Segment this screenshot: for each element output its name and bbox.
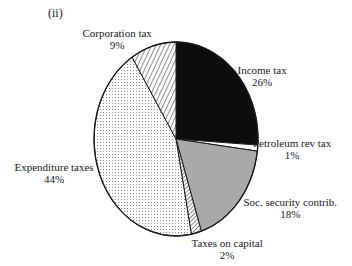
label-percent: 2%	[192, 249, 263, 261]
label-name: Income tax	[238, 64, 287, 76]
label-percent: 26%	[238, 76, 287, 88]
label-percent: 44%	[15, 173, 94, 185]
label-percent: 18%	[244, 208, 337, 220]
label-name: Petroleum rev tax	[253, 137, 331, 149]
label-name: Taxes on capital	[192, 237, 263, 249]
label-percent: 9%	[83, 39, 152, 51]
label-income-tax: Income tax26%	[238, 64, 287, 88]
label-name: Soc. security contrib.	[244, 196, 337, 208]
pie-slice-income-tax	[176, 42, 258, 145]
label-taxes-on-capital: Taxes on capital2%	[192, 237, 263, 261]
label-petroleum-rev-tax: Petroleum rev tax1%	[253, 137, 331, 161]
label-name: Corporation tax	[83, 27, 152, 39]
pie-chart	[0, 0, 352, 266]
label-name: Expenditure taxes	[15, 161, 94, 173]
pie-slices	[94, 42, 258, 236]
label-percent: 1%	[253, 149, 331, 161]
label-expenditure-taxes: Expenditure taxes44%	[15, 161, 94, 185]
label-soc-security-contrib: Soc. security contrib.18%	[244, 196, 337, 220]
label-corporation-tax: Corporation tax9%	[83, 27, 152, 51]
